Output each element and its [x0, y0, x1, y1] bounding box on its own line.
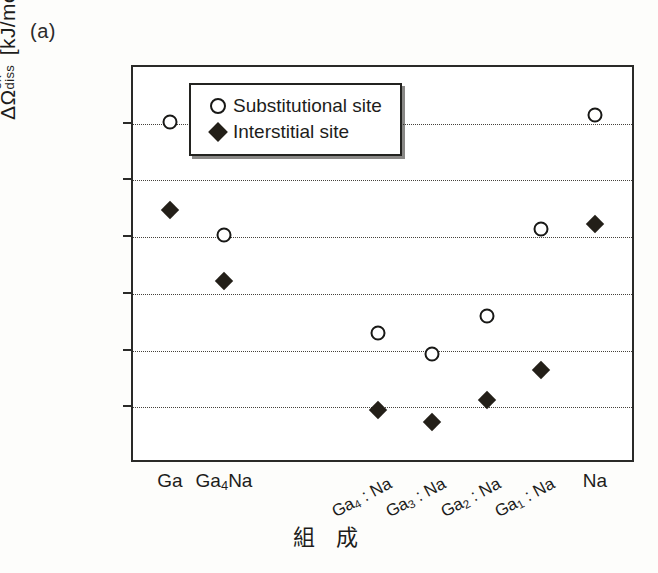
gridline [133, 351, 632, 352]
x-tick-label: Ga2 : Na [438, 474, 505, 522]
legend: Substitutional site Interstitial site [189, 83, 402, 156]
x-tick-label: Na [583, 470, 607, 492]
data-point-circle [425, 347, 440, 362]
x-tick-label: Ga4 : Na [329, 474, 396, 522]
open-circle-icon [203, 98, 233, 114]
data-point-circle [588, 107, 603, 122]
y-axis-symbol: ΔΩexdiss [0, 89, 20, 120]
y-tick-mark [123, 178, 132, 180]
y-axis-subscript: diss [3, 65, 16, 90]
y-tick-mark [123, 292, 132, 294]
y-tick-mark [123, 349, 132, 351]
legend-item-interstitial: Interstitial site [203, 119, 382, 145]
data-point-circle [371, 325, 386, 340]
legend-item-substitutional: Substitutional site [203, 93, 382, 119]
data-point-circle [534, 222, 549, 237]
figure-panel: (a) ΔΩexdiss [kJ/mol] 組 成 Substitutional… [0, 0, 658, 573]
y-tick-mark [123, 122, 132, 124]
data-point-circle [480, 308, 495, 323]
gridline [133, 294, 632, 295]
panel-label: (a) [30, 20, 56, 43]
gridline [133, 180, 632, 181]
legend-label: Interstitial site [233, 121, 349, 143]
legend-label: Substitutional site [233, 95, 382, 117]
y-axis-units: [kJ/mol] [0, 0, 19, 55]
x-axis-title: 組 成 [0, 519, 658, 551]
y-tick-mark [123, 235, 132, 237]
x-tick-label: Ga [157, 470, 182, 492]
x-tick-label: Ga4Na [196, 470, 253, 493]
data-point-circle [217, 228, 232, 243]
y-tick-mark [123, 405, 132, 407]
x-tick-label: Ga1 : Na [492, 474, 559, 522]
x-tick-label: Ga3 : Na [383, 474, 450, 522]
data-point-circle [163, 114, 178, 129]
y-axis-title: ΔΩexdiss [kJ/mol] [0, 0, 20, 120]
filled-diamond-icon [203, 125, 233, 139]
gridline [133, 237, 632, 238]
